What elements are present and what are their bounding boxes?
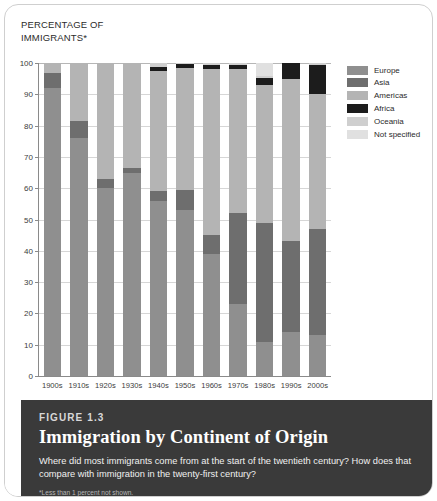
legend-swatch-icon [347, 91, 368, 100]
y-tick-label: 60 [24, 184, 33, 193]
legend-swatch-icon [347, 66, 368, 75]
bar-segment-africa [229, 65, 247, 70]
bar-column [97, 63, 115, 376]
bar-column [229, 63, 247, 376]
y-tick-label: 80 [24, 121, 33, 130]
legend-label: Asia [374, 78, 390, 87]
y-tick-mark [35, 376, 39, 377]
bar-column [70, 63, 88, 376]
bar-segment-europe [203, 254, 221, 376]
legend-label: Americas [374, 91, 407, 100]
legend-label: Europe [374, 66, 400, 75]
legend-label: Africa [374, 104, 394, 113]
x-tick-label: 1910s [68, 381, 89, 390]
bar-segment-asia [309, 229, 327, 335]
bar-segment-europe [70, 138, 88, 376]
bar-segment-asia [256, 223, 274, 342]
legend-swatch-icon [347, 130, 368, 139]
bar-segment-americas [123, 63, 141, 168]
bar-segment-oceania [150, 63, 168, 67]
bar-segment-asia [44, 73, 62, 88]
bar-segment-oceania [256, 76, 274, 78]
plot-area: 0102030405060708090100 1900s1910s1920s19… [38, 63, 331, 377]
legend-label: Not specified [374, 130, 420, 139]
bar-column [123, 63, 141, 376]
bar-segment-africa [282, 63, 300, 79]
y-tick-label: 90 [24, 90, 33, 99]
legend-item-americas: Americas [347, 90, 431, 102]
bar-segment-americas [229, 69, 247, 213]
bar-segment-oceania [309, 63, 327, 65]
y-tick-label: 50 [24, 215, 33, 224]
legend-item-asia: Asia [347, 77, 431, 89]
legend-item-africa: Africa [347, 102, 431, 114]
bar-segment-asia [123, 168, 141, 173]
bar-segment-americas [176, 68, 194, 190]
y-tick-label: 40 [24, 246, 33, 255]
bar-segment-africa [176, 64, 194, 68]
bar-segment-americas [203, 69, 221, 235]
x-tick-label: 1990s [281, 381, 302, 390]
legend-item-europe: Europe [347, 64, 431, 76]
bar-segment-europe [229, 304, 247, 376]
bar-segment-oceania [176, 63, 194, 64]
y-tick-label: 10 [24, 340, 33, 349]
y-tick-label: 100 [20, 59, 33, 68]
x-tick-label: 1930s [122, 381, 143, 390]
bar-segment-americas [97, 63, 115, 179]
bar-segment-americas [150, 71, 168, 192]
bar-segment-asia [282, 241, 300, 332]
figure-title: Immigration by Continent of Origin [39, 427, 416, 448]
bar-column [203, 63, 221, 376]
x-tick-label: 1960s [201, 381, 222, 390]
bar-column [150, 63, 168, 376]
bar-segment-asia [203, 235, 221, 254]
legend-swatch-icon [347, 78, 368, 87]
bar-segment-americas [309, 94, 327, 229]
figure-caption-block: FIGURE 1.3 Immigration by Continent of O… [21, 400, 433, 497]
bar-segment-asia [176, 190, 194, 210]
bar-segment-europe [256, 342, 274, 376]
bar-segment-asia [97, 179, 115, 188]
chart-legend: EuropeAsiaAmericasAfricaOceaniaNot speci… [347, 64, 431, 141]
bar-segment-europe [176, 210, 194, 376]
figure-footnote: *Less than 1 percent not shown. [39, 489, 416, 497]
bar-segment-americas [282, 79, 300, 242]
bar-segment-africa [203, 65, 221, 69]
y-tick-label: 30 [24, 278, 33, 287]
legend-item-not-specified: Not specified [347, 128, 431, 140]
bar-segment-europe [282, 332, 300, 376]
x-tick-label: 1980s [254, 381, 275, 390]
bar-segment-americas [70, 63, 88, 121]
x-tick-label: 1920s [95, 381, 116, 390]
bar-segment-not-specified [256, 63, 274, 76]
bar-segment-americas [44, 63, 62, 73]
bar-column [309, 63, 327, 376]
bar-segment-europe [150, 201, 168, 376]
bar-column [176, 63, 194, 376]
legend-item-oceania: Oceania [347, 115, 431, 127]
caption-left-gutter [5, 400, 21, 497]
bar-segment-africa [309, 65, 327, 95]
bar-segment-oceania [203, 63, 221, 65]
bar-segment-americas [256, 85, 274, 223]
bar-segment-europe [123, 173, 141, 376]
x-tick-label: 1950s [175, 381, 196, 390]
bar-segment-asia [150, 191, 168, 200]
bar-segment-europe [97, 188, 115, 376]
bar-column [256, 63, 274, 376]
bar-column [282, 63, 300, 376]
bar-segment-asia [229, 213, 247, 304]
bar-series-group [39, 63, 331, 376]
bar-segment-europe [44, 88, 62, 376]
bar-segment-europe [309, 335, 327, 376]
x-tick-label: 1900s [42, 381, 63, 390]
x-tick-label: 1970s [228, 381, 249, 390]
bar-segment-africa [256, 78, 274, 85]
figure-card: PERCENTAGE OF IMMIGRANTS* 01020304050607… [4, 4, 433, 497]
figure-number: FIGURE 1.3 [39, 412, 416, 423]
legend-swatch-icon [347, 104, 368, 113]
bar-column [44, 63, 62, 376]
x-tick-label: 1940s [148, 381, 169, 390]
legend-swatch-icon [347, 117, 368, 126]
